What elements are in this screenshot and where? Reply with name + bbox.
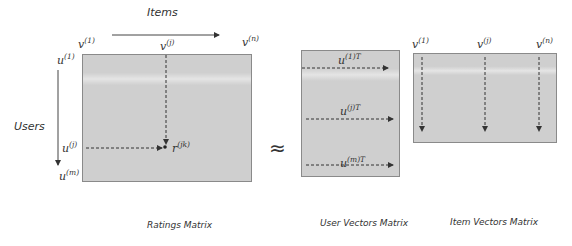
label-vn: v(n) — [242, 34, 259, 49]
label-item-vj: v(j) — [477, 36, 491, 51]
label-uj: u(j) — [62, 140, 77, 155]
ratings-matrix-caption: Ratings Matrix — [147, 220, 212, 230]
label-item-v1: v(1) — [412, 36, 429, 51]
label-u1: u(1) — [57, 52, 75, 67]
label-item-vn: v(n) — [536, 36, 553, 51]
label-umT: u(m)T — [340, 155, 365, 170]
label-ujT: u(j)T — [340, 103, 360, 118]
label-vj: v(j) — [160, 38, 174, 53]
ratings-matrix — [82, 54, 252, 182]
label-u1T: u(1)T — [338, 52, 361, 67]
item-vectors-caption: Item Vectors Matrix — [450, 217, 538, 227]
approx-symbol: ≈ — [269, 136, 286, 160]
label-um: u(m) — [59, 168, 79, 183]
label-rjk: r(jk) — [172, 140, 190, 155]
user-vectors-caption: User Vectors Matrix — [320, 218, 408, 228]
users-axis-title: Users — [14, 120, 45, 133]
label-v1: v(1) — [78, 36, 95, 51]
item-vectors-matrix — [413, 53, 557, 143]
items-axis-title: Items — [147, 6, 178, 19]
